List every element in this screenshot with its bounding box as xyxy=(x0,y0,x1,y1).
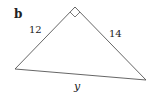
hypotenuse-variable-label: y xyxy=(74,81,80,92)
left-leg-length-label: 12 xyxy=(29,25,42,35)
right-angle-marker xyxy=(70,12,80,17)
right-triangle-figure: b 12 14 y xyxy=(0,0,150,105)
right-leg-length-label: 14 xyxy=(109,29,122,39)
triangle-shape xyxy=(15,7,146,80)
part-label: b xyxy=(14,8,22,20)
